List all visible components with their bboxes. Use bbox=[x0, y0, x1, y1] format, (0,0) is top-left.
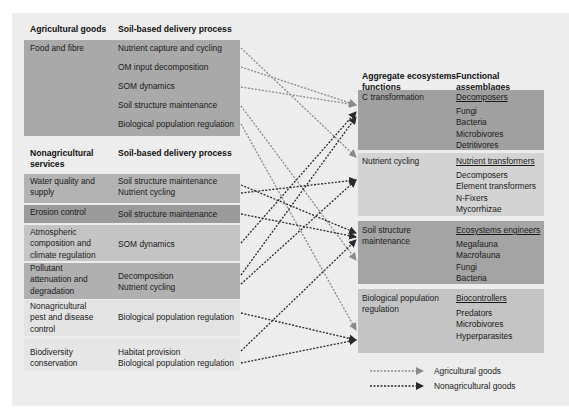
legend-agricultural: Agricultural goods bbox=[434, 366, 501, 377]
legend-nonagricultural: Nonagricultural goods bbox=[434, 381, 515, 392]
connection-arrows bbox=[0, 0, 569, 415]
